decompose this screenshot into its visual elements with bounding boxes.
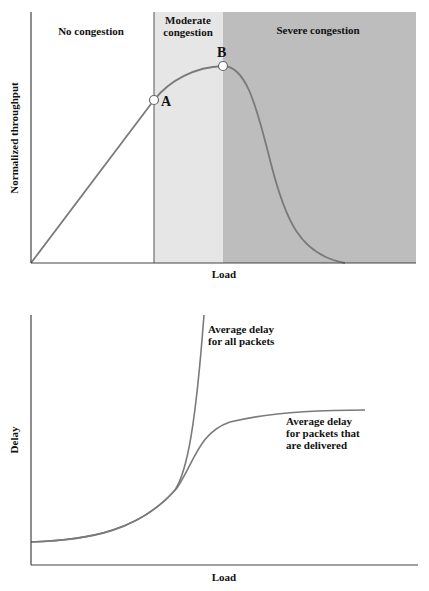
point-b-marker: [219, 62, 228, 71]
series-label-delivered-2: for packets that: [286, 427, 360, 439]
x-axis-label: Load: [212, 268, 236, 280]
series-label-delivered-3: are delivered: [286, 439, 347, 451]
x-axis-label: Load: [212, 571, 236, 583]
series-label-all-2: for all packets: [208, 335, 275, 347]
y-axis-label: Delay: [8, 426, 20, 453]
delay-chart: Average delay for all packets Average de…: [8, 315, 418, 583]
throughput-chart: No congestion Moderate congestion Severe…: [8, 12, 416, 280]
series-label-all-1: Average delay: [208, 323, 275, 335]
congestion-diagram: No congestion Moderate congestion Severe…: [0, 0, 429, 591]
curve-all-packets: [31, 315, 204, 542]
region-label-severe: Severe congestion: [276, 24, 359, 36]
region-label-moderate-1: Moderate: [165, 14, 211, 26]
region-label-moderate-2: congestion: [163, 26, 213, 38]
region-severe: [223, 12, 416, 263]
region-label-no-congestion: No congestion: [58, 25, 124, 37]
point-a-label: A: [161, 94, 172, 109]
region-moderate: [154, 12, 223, 263]
y-axis-label: Normalized throughput: [8, 82, 20, 194]
point-b-label: B: [217, 45, 226, 60]
series-label-delivered-1: Average delay: [286, 415, 353, 427]
point-a-marker: [150, 96, 159, 105]
